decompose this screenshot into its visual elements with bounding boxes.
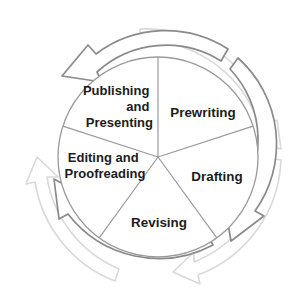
svg-text:Prewriting: Prewriting [170,105,235,120]
wedge-label-publishing-line-1: and [126,99,149,114]
svg-text:Drafting: Drafting [191,169,242,184]
cycle-diagram-canvas: Prewriting Drafting Revising Editing and… [0,0,304,305]
wedge-label-prewriting-line-0: Prewriting [170,105,235,120]
svg-text:Editing and Proofreadi: Editing and Proofreading [65,150,146,181]
wedge-label-drafting: Drafting [191,169,242,184]
wedge-label-prewriting: Prewriting [170,105,235,120]
wedge-label-revising: Revising [131,215,187,230]
writing-process-cycle-diagram: Prewriting Drafting Revising Editing and… [0,0,304,305]
wedge-label-editing-line-0: Editing and [68,150,139,165]
wedge-label-revising-line-0: Revising [131,215,187,230]
wedge-label-drafting-line-0: Drafting [191,169,242,184]
wedge-label-editing-and-proofreading: Editing and Proofreading [65,150,146,181]
wedge-label-publishing-line-0: Publishing [83,83,150,98]
wedge-label-editing-line-1: Proofreading [65,166,146,181]
wedge-label-publishing-line-2: Presenting [86,115,153,130]
svg-text:Revising: Revising [131,215,187,230]
